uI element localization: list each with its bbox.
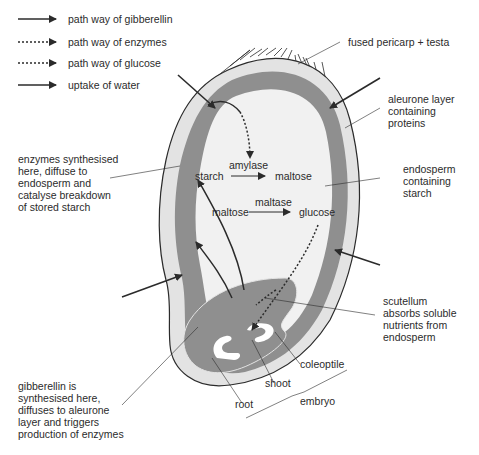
reaction2-enzyme: maltase: [255, 196, 292, 208]
label-endosperm: endosperm containing starch: [403, 163, 456, 199]
reaction1-enzyme: amylase: [229, 159, 268, 171]
label-enzymes-synthesised: enzymes synthesised here, diffuse to end…: [18, 153, 118, 213]
label-gibberellin-source: gibberellin is synthesised here, diffuse…: [18, 380, 124, 440]
legend-lines: [18, 19, 56, 85]
label-coleoptile: coleoptile: [300, 358, 344, 370]
reaction1-substrate: starch: [195, 170, 224, 182]
label-aleurone: aleurone layer containing proteins: [388, 93, 455, 129]
reaction1-product: maltose: [275, 170, 312, 182]
label-scutellum: scutellum absorbs soluble nutrients from…: [383, 295, 457, 343]
reaction2-substrate: maltose: [212, 206, 249, 218]
label-pericarp: fused pericarp + testa: [348, 36, 449, 48]
label-shoot: shoot: [265, 377, 291, 389]
label-embryo: embryo: [300, 395, 335, 407]
legend-glucose: path way of glucose: [68, 57, 161, 69]
legend-enzymes: path way of enzymes: [68, 36, 167, 48]
label-root: root: [235, 398, 253, 410]
reaction2-product: glucose: [299, 206, 335, 218]
legend-gibberellin: path way of gibberellin: [68, 13, 172, 25]
legend-water: uptake of water: [68, 79, 140, 91]
